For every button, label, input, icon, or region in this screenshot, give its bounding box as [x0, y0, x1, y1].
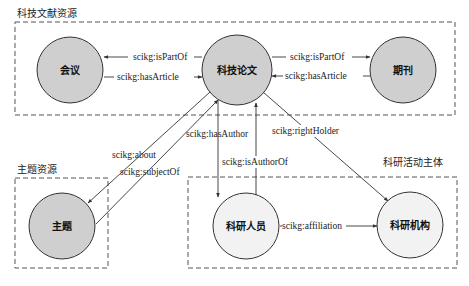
node-label-researcher: 科研人员: [226, 220, 266, 232]
diagram-canvas: 科技文献资源 主题资源 科研活动主体 scikg:isPartOf: [0, 0, 469, 286]
edge-subject-paper-subjectof: [96, 100, 218, 224]
edge-label-rightholder: scikg:rightHolder: [272, 126, 340, 136]
node-institution: 科研机构: [377, 192, 443, 258]
node-paper: 科技论文: [202, 35, 272, 105]
edge-label-ispartof-left: scikg:isPartOf: [133, 52, 188, 62]
edge-label-affiliation: scikg:affiliation: [282, 221, 342, 231]
node-conference: 会议: [37, 37, 103, 103]
node-label-journal: 期刊: [393, 64, 413, 76]
edge-label-subjectof: scikg:subjectOf: [120, 167, 180, 177]
edge-label-hasarticle-right: scikg:hasArticle: [285, 71, 347, 81]
edge-label-hasarticle-left: scikg:hasArticle: [117, 72, 179, 82]
edge-label-isauthorof: scikg:isAuthorOf: [222, 157, 289, 167]
edge-paper-institution-rightholder: [263, 92, 388, 201]
node-label-conference: 会议: [60, 64, 81, 76]
node-label-subject: 主题: [52, 220, 73, 232]
node-label-paper: 科技论文: [217, 64, 258, 76]
group-label-actors: 科研活动主体: [383, 156, 443, 168]
node-researcher: 科研人员: [213, 193, 279, 259]
group-label-literature: 科技文献资源: [17, 7, 77, 19]
node-journal: 期刊: [370, 37, 436, 103]
edge-label-about: scikg:about: [112, 150, 156, 160]
node-label-institution: 科研机构: [390, 219, 430, 231]
edge-label-ispartof-right: scikg:isPartOf: [290, 52, 345, 62]
edge-label-hasauthor: scikg:hasAuthor: [186, 129, 249, 139]
node-subject: 主题: [29, 193, 95, 259]
edge-paper-subject-about: [88, 92, 210, 203]
group-label-topic: 主题资源: [17, 163, 57, 175]
